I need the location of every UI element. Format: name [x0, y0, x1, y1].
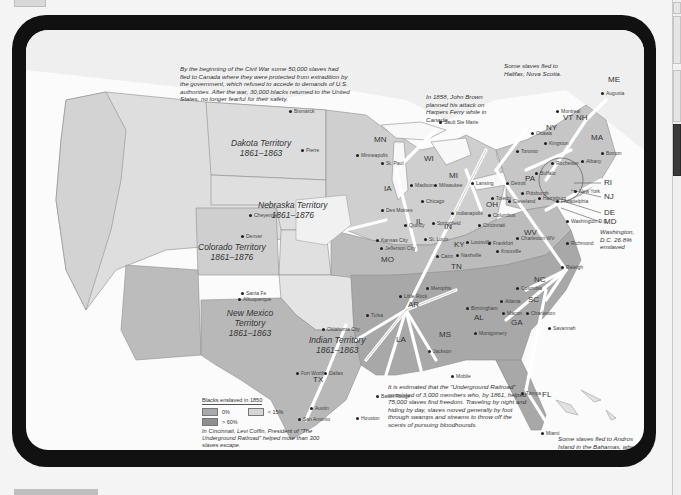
city-raleigh: Raleigh: [561, 264, 583, 270]
city-ottawa: Ottawa: [531, 130, 552, 136]
city-buffalo: Buffalo: [535, 170, 555, 176]
city-boston: Boston: [601, 150, 622, 156]
city-mobile: Mobile: [451, 373, 471, 379]
state-nh: NH: [576, 113, 588, 122]
state-la: LA: [396, 335, 406, 344]
city-des-moines: Des Moines: [381, 207, 412, 213]
state-pa: PA: [525, 174, 535, 183]
city-columbia: Columbia: [516, 285, 542, 291]
city-miami: Miami: [541, 430, 559, 436]
city-augusta: Augusta: [601, 90, 624, 96]
city-pittsburgh: Pittsburgh: [521, 190, 549, 196]
state-ia: IA: [384, 184, 392, 193]
city-quincy: Quincy: [404, 222, 425, 228]
side-button-3[interactable]: [673, 70, 681, 122]
city-cheyenne: Cheyenne: [249, 212, 277, 218]
state-al: AL: [474, 313, 484, 322]
state-mo: MO: [381, 255, 394, 264]
state-oh: OH: [486, 200, 498, 209]
legend-swatch-gt60: [202, 418, 218, 426]
state-vt: VT: [563, 113, 573, 122]
city-savannah: Savannah: [548, 325, 576, 331]
note-canada: By the beginning of the Civil War some 5…: [180, 65, 350, 103]
city-jefferson-city: Jefferson City: [380, 245, 415, 251]
state-sc: SC: [528, 295, 539, 304]
state-tx: TX: [313, 375, 323, 384]
city-detroit: Detroit: [506, 180, 526, 186]
city-nashville: Nashville: [456, 252, 481, 258]
underground-railroad-map: By the beginning of the Civil War some 5…: [26, 30, 644, 450]
legend-swatch-0pct: [202, 408, 218, 416]
city-lansing: Lansing: [471, 180, 494, 186]
city-albany: Albany: [581, 158, 601, 164]
city-houston: Houston: [356, 415, 380, 421]
city-kingston: Kingston: [544, 140, 568, 146]
city-macon: Macon: [502, 310, 522, 316]
city-denver: Denver: [241, 233, 262, 239]
city-bismarck: Bismarck: [289, 108, 315, 114]
city-montgomery: Montgomery: [474, 330, 507, 336]
legend-row: 0% < 15%: [202, 408, 332, 416]
legend-label-lt15: < 15%: [268, 409, 283, 415]
city-fort-worth: Fort Worth: [296, 370, 325, 376]
legend-row: > 60%: [202, 418, 332, 426]
state-ar: AR: [408, 300, 419, 309]
city-cleveland: Cleveland: [508, 198, 535, 204]
state-nj: NJ: [604, 192, 614, 201]
city-new-york: New York: [574, 188, 600, 194]
city-tampa: Tampa: [521, 390, 541, 396]
territory-new-mexico: New Mexico Territory1861–1863: [226, 308, 274, 338]
state-mn: MN: [374, 135, 386, 144]
city-atlanta: Atlanta: [500, 298, 521, 304]
city-charleston: Charleston: [526, 310, 555, 316]
city-columbus: Columbus: [488, 212, 516, 218]
city-charleston-wv: Charleston WV: [516, 235, 555, 241]
city-st-paul: St. Paul: [381, 160, 404, 166]
note-underground-railroad: It is estimated that the "Underground Ra…: [388, 383, 528, 429]
city-sault-ste-marie: Sault Ste Marie: [439, 119, 478, 125]
city-knoxville: Knoxville: [496, 248, 521, 254]
city-chicago: Chicago: [421, 198, 444, 204]
note-halifax: Some slaves fled to Halifax, Nova Scotia…: [504, 62, 564, 77]
city-pierre: Pierre: [301, 147, 319, 153]
city-montreal: Montreal: [556, 108, 580, 114]
territory-indian: Indian Territory1861–1863: [309, 335, 365, 355]
top-tab: [14, 0, 46, 7]
city-springfield: Springfield: [432, 220, 461, 226]
city-dallas: Dallas: [324, 370, 343, 376]
side-button-active[interactable]: [673, 124, 681, 176]
city-oklahoma-city: Oklahoma City: [322, 326, 360, 332]
city-birmingham: Birmingham: [466, 305, 498, 311]
side-button-1[interactable]: [673, 2, 681, 14]
state-tn: TN: [451, 262, 462, 271]
state-ky: KY: [454, 240, 465, 249]
city-cairo: Cairo: [436, 253, 453, 259]
city-tulsa: Tulsa: [366, 312, 383, 318]
city-st-louis: St. Louis: [424, 236, 448, 242]
city-indianapolis: Indianapolis: [451, 210, 483, 216]
state-nc: NC: [534, 275, 546, 284]
city-washington-dc: Washington D.C.: [566, 218, 609, 224]
legend-label-0pct: 0%: [222, 409, 230, 415]
bottom-bar: [14, 489, 98, 495]
legend-swatch-lt15: [248, 408, 264, 416]
city-richmond: Richmond: [566, 240, 594, 246]
city-toronto: Toronto: [516, 148, 538, 154]
city-minneapolis: Minneapolis: [356, 152, 388, 158]
city-milwaukee: Milwaukee: [434, 182, 463, 188]
legend: Blacks enslaved in 1850 0% < 15% > 60% I…: [202, 388, 332, 449]
side-button-2[interactable]: [673, 16, 681, 64]
state-de: DE: [604, 208, 615, 217]
legend-note-cincinnati: In Cincinnati, Levi Coffin, President of…: [202, 428, 332, 449]
state-fl: FL: [542, 390, 551, 399]
note-andros: Some slaves fled to Andros Island in the…: [558, 435, 644, 450]
city-jackson: Jackson: [428, 348, 451, 354]
city-little-rock: Little Rock: [399, 293, 427, 299]
city-frankfort: Frankfort: [488, 240, 513, 246]
territory-dakota: Dakota Territory1861–1863: [231, 138, 291, 158]
city-kansas-city: Kansas City: [376, 237, 408, 243]
city-memphis: Memphis: [426, 285, 451, 291]
city-rochester: Rochester: [551, 160, 579, 166]
state-ri: RI: [604, 178, 612, 187]
note-washington: Washington, D.C. 26.8% enslaved: [600, 228, 644, 251]
